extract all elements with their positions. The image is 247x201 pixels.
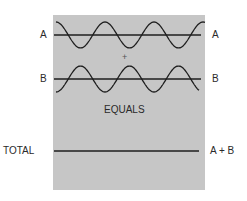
wave-b-label-left: B: [40, 74, 47, 84]
wave-interference-diagram: A A + B B EQUALS TOTAL A + B: [0, 0, 247, 201]
total-label: TOTAL: [3, 146, 34, 156]
plus-sign: +: [122, 52, 127, 62]
diagram-canvas: [0, 0, 247, 201]
equals-text: EQUALS: [104, 105, 145, 115]
wave-a-label-right: A: [212, 30, 219, 40]
wave-b-label-right: B: [212, 74, 219, 84]
gray-panel: [53, 15, 205, 190]
sum-label: A + B: [210, 146, 234, 156]
wave-a-label-left: A: [40, 30, 47, 40]
